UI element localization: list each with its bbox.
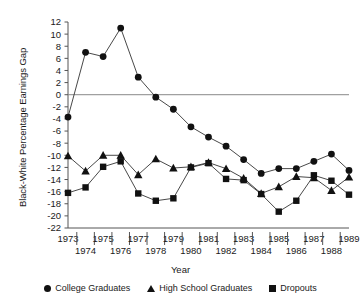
data-point-circle [117,25,124,32]
data-point-triangle [222,164,230,172]
data-point-triangle [327,186,335,194]
legend-item-college-graduates: College Graduates [44,283,130,293]
x-tick-label: 1976 [110,245,131,256]
data-point-circle [65,114,72,121]
x-tick-label: 1987 [303,233,324,244]
legend-item-dropouts: Dropouts [269,283,317,293]
x-tick-label: 1975 [93,233,114,244]
chart-plot-svg: 121086420-2-4-6-8-10-12-14-16-18-20-22 1… [0,0,361,308]
data-point-square [153,198,159,204]
data-point-circle [275,165,282,172]
y-tick-label: -16 [47,186,61,197]
data-point-square [311,172,317,178]
data-point-circle [328,151,335,158]
data-point-square [188,164,194,170]
data-point-circle [188,123,195,130]
data-point-circle [223,143,230,150]
y-tick-label: 6 [56,53,61,64]
x-tick-label: 1985 [268,233,289,244]
y-tick-label: -20 [47,210,61,221]
legend-item-high-school-graduates: High School Graduates [147,283,252,293]
x-tick-label: 1981 [198,233,219,244]
x-tick-label: 1986 [286,245,307,256]
data-point-circle [240,156,247,163]
data-point-triangle [345,173,353,181]
legend-label: Dropouts [280,283,317,293]
data-point-triangle [275,183,283,191]
x-tick-label: 1978 [145,245,166,256]
data-point-square [276,208,282,214]
x-axis-tick-labels: 1973197419751976197719781979198019811982… [57,232,359,256]
data-point-circle [170,106,177,113]
y-tick-label: -10 [47,150,61,161]
data-point-square [82,184,88,190]
data-point-square [258,191,264,197]
data-point-circle [258,170,265,177]
y-axis-tick-labels: 121086420-2-4-6-8-10-12-14-16-18-20-22 [47,16,61,233]
y-tick-label: 10 [50,29,61,40]
data-point-square [135,190,141,196]
y-tick-label: -2 [53,101,61,112]
legend-label: College Graduates [55,283,130,293]
y-tick-label: -18 [47,198,61,209]
x-tick-label: 1988 [321,245,342,256]
data-point-square [223,176,229,182]
y-tick-label: 0 [56,89,61,100]
y-tick-label: -8 [53,138,61,149]
x-tick-label: 1989 [338,233,359,244]
chart-container: Black-White Percentage Earnings Gap 1210… [0,0,361,308]
data-point-circle [293,165,300,172]
x-tick-label: 1977 [128,233,149,244]
data-point-square [240,177,246,183]
data-point-square [65,190,71,196]
x-tick-label: 1980 [180,245,201,256]
y-tick-label: -6 [53,125,61,136]
triangle-marker-icon [147,285,155,292]
y-tick-label: -22 [47,222,61,233]
circle-marker-icon [44,285,51,292]
x-tick-label: 1979 [163,233,184,244]
y-tick-label: 12 [50,16,61,27]
data-point-square [205,160,211,166]
y-tick-label: -14 [47,174,61,185]
data-point-circle [152,94,159,101]
data-point-square [346,191,352,197]
x-tick-label: 1983 [233,233,254,244]
square-marker-icon [269,285,276,292]
data-point-triangle [292,172,300,180]
x-tick-label: 1984 [251,245,272,256]
data-point-square [170,195,176,201]
y-tick-label: 8 [56,41,61,52]
y-tick-label: 2 [56,77,61,88]
data-point-circle [310,158,317,165]
data-point-triangle [152,155,160,163]
x-tick-label: 1974 [75,245,96,256]
x-tick-label: 1973 [57,233,78,244]
data-point-square [328,178,334,184]
x-axis-title: Year [0,264,361,275]
data-point-circle [82,49,89,56]
y-tick-label: 4 [56,65,61,76]
y-tick-label: -4 [53,113,61,124]
data-point-square [100,164,106,170]
x-tick-label: 1982 [215,245,236,256]
data-point-circle [346,167,353,174]
legend-label: High School Graduates [159,283,252,293]
data-point-circle [205,134,212,141]
data-point-square [293,198,299,204]
series-line-circle [68,28,349,173]
data-point-circle [135,74,142,81]
data-series-group [64,25,353,215]
chart-legend: College Graduates High School Graduates … [0,283,361,293]
series-line-square [68,161,349,211]
data-point-square [117,158,123,164]
axis-lines [65,22,350,228]
data-point-circle [100,53,107,60]
y-tick-label: -12 [47,162,61,173]
